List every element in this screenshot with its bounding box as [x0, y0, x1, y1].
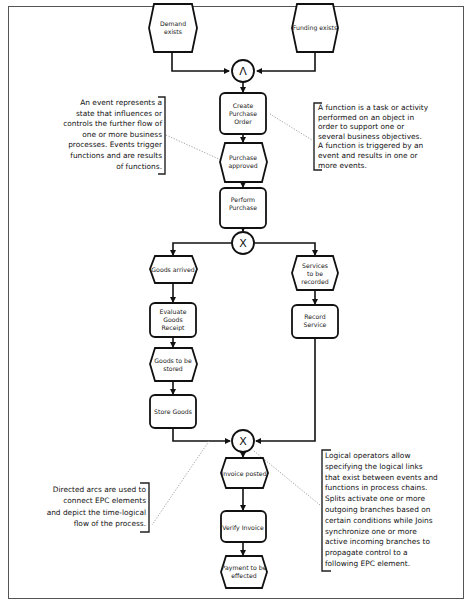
arc-xor-to-services [254, 243, 315, 255]
label-goods-stored-2: stored [163, 365, 183, 372]
callout-arcs: Directed arcs are used to connect EPC el… [34, 484, 146, 530]
label-evaluate-1: Evaluate [159, 308, 186, 315]
label-verify-invoice: Verify Invoice [222, 524, 264, 532]
arc-xor-to-goods-arrived [173, 243, 232, 255]
label-services-2: to be [307, 270, 323, 277]
label-services-3: recorded [301, 278, 329, 285]
label-evaluate-2: Goods [163, 316, 183, 323]
label-create-po-2: Purchase [229, 110, 257, 117]
connector-function-callout [270, 114, 312, 140]
label-record-service-2: Service [304, 321, 327, 328]
xor-join-symbol: X [239, 435, 247, 448]
label-payment-2: effected [231, 572, 257, 579]
arc-demand-to-and [172, 52, 229, 71]
callout-function: A function is a task or activity perform… [318, 103, 458, 170]
callout-operators: Logical operators allow specifying the l… [325, 451, 465, 570]
label-perform-purchase-2: Purchase [229, 204, 257, 211]
callout-event: An event represents a state that influen… [30, 98, 162, 172]
arc-funding-to-and [257, 52, 315, 71]
label-goods-stored-1: Goods to be [154, 357, 192, 364]
label-create-po-1: Create [233, 102, 254, 109]
arc-store-to-xor-join [173, 428, 230, 441]
arc-record-to-xor-join [256, 338, 315, 441]
label-create-po-3: Order [234, 118, 252, 125]
label-record-service-1: Record [304, 313, 325, 320]
label-goods-arrived: Goods arrived [151, 266, 194, 273]
label-invoice-posted: Invoice posted [221, 470, 266, 478]
label-demand-exists-1: Demand [160, 20, 186, 27]
label-purchase-approved-2: approved [228, 162, 257, 170]
label-funding-exists: Funding exists [293, 24, 337, 32]
connector-event-callout [166, 135, 221, 160]
label-purchase-approved-1: Purchase [229, 154, 257, 161]
label-store-goods: Store Goods [154, 408, 192, 415]
xor-split-symbol: X [239, 237, 247, 250]
label-perform-purchase-1: Perform [231, 196, 255, 203]
label-evaluate-3: Receipt [161, 324, 185, 332]
and-symbol: Λ [239, 65, 247, 78]
connector-arcs-callout [152, 441, 209, 525]
label-demand-exists-2: exists [164, 28, 182, 35]
label-payment-1: Payment to be [222, 564, 267, 572]
label-services-1: Services [302, 262, 328, 269]
